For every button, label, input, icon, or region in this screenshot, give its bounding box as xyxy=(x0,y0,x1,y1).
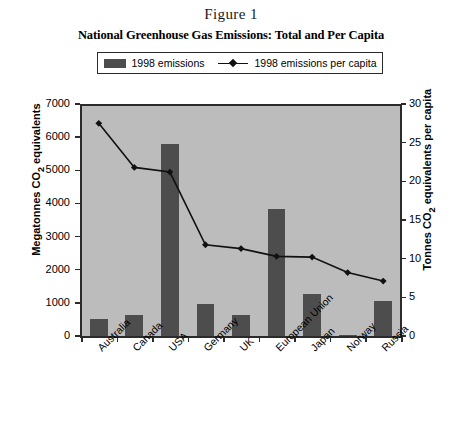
line-marker-uk xyxy=(238,245,245,252)
line-series-layer xyxy=(81,104,401,336)
axis-top xyxy=(80,104,402,106)
line-marker-european-union xyxy=(273,253,280,260)
chart-title: National Greenhouse Gas Emissions: Total… xyxy=(0,28,462,43)
y-tick-label-right: 0 xyxy=(409,330,415,341)
y-tick-right xyxy=(401,297,406,299)
y-tick-label-right: 15 xyxy=(409,214,421,225)
y-tick-right xyxy=(401,258,406,260)
line-marker-germany xyxy=(202,241,209,248)
line-marker-norway xyxy=(344,269,351,276)
y-tick-label-left: 3000 xyxy=(46,231,70,242)
y-tick-label-right: 30 xyxy=(409,98,421,109)
y-tick-label-left: 0 xyxy=(64,330,70,341)
y-tick-label-right: 20 xyxy=(409,175,421,186)
y-tick-right xyxy=(401,142,406,144)
chart-legend: 1998 emissions 1998 emissions per capita xyxy=(97,52,383,74)
y-tick-left xyxy=(75,136,80,138)
y-tick-right xyxy=(401,219,406,221)
y-tick-right xyxy=(401,181,406,183)
y-tick-left xyxy=(75,302,80,304)
y-tick-left xyxy=(75,335,80,337)
y-tick-left xyxy=(75,103,80,105)
y-tick-label-right: 25 xyxy=(409,137,421,148)
x-tick xyxy=(81,337,83,342)
line-marker-usa xyxy=(166,169,173,176)
axis-left xyxy=(80,104,82,337)
y-tick-label-left: 7000 xyxy=(46,98,70,109)
line-marker-russia xyxy=(380,278,387,285)
figure-label: Figure 1 xyxy=(0,6,462,23)
y-tick-label-left: 6000 xyxy=(46,131,70,142)
y-tick-label-left: 5000 xyxy=(46,164,70,175)
legend-entry-bar: 1998 emissions xyxy=(104,57,205,69)
plot-area xyxy=(81,104,401,336)
legend-entry-line: 1998 emissions per capita xyxy=(218,57,376,69)
line-marker-japan xyxy=(309,254,316,261)
y-tick-label-right: 10 xyxy=(409,253,421,264)
y-tick-label-left: 1000 xyxy=(46,297,70,308)
y-tick-left xyxy=(75,269,80,271)
legend-label-line: 1998 emissions per capita xyxy=(254,57,376,69)
y-tick-label-right: 5 xyxy=(409,291,415,302)
x-axis-label-uk: UK xyxy=(237,335,256,354)
legend-label-bar: 1998 emissions xyxy=(132,57,205,69)
y-tick-left xyxy=(75,236,80,238)
y-tick-label-left: 2000 xyxy=(46,264,70,275)
y-axis-right-title: Tonnes CO2 equivalents per capita xyxy=(421,65,436,295)
y-axis-left-title: Megatonnes CO2 equivalents xyxy=(30,70,45,290)
y-tick-left xyxy=(75,203,80,205)
line-marker-swatch-icon xyxy=(218,59,248,68)
per-capita-line xyxy=(99,123,383,281)
bar-swatch-icon xyxy=(104,59,126,68)
x-tick xyxy=(259,337,261,342)
y-tick-right xyxy=(401,103,406,105)
y-tick-label-left: 4000 xyxy=(46,197,70,208)
y-tick-left xyxy=(75,170,80,172)
